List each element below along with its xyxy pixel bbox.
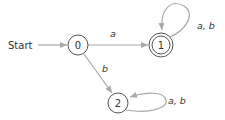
edge-2-2-loop	[126, 93, 166, 111]
state-0: 0	[68, 35, 88, 55]
edge-1-1-loop	[162, 4, 190, 37]
state-2: 2	[108, 93, 128, 113]
edge-0-1-label: a	[110, 28, 116, 39]
state-0-label: 0	[75, 40, 81, 51]
edge-0-2-label: b	[102, 63, 108, 74]
edge-1-1-label: a, b	[197, 20, 215, 31]
edge-2-2-label: a, b	[168, 95, 186, 106]
state-1-label: 1	[158, 40, 164, 51]
state-2-label: 2	[115, 98, 121, 109]
state-1-accepting: 1	[149, 33, 173, 57]
automaton-diagram: Start a b a, b a, b 0 1 2	[0, 0, 225, 120]
start-label: Start	[8, 40, 33, 51]
